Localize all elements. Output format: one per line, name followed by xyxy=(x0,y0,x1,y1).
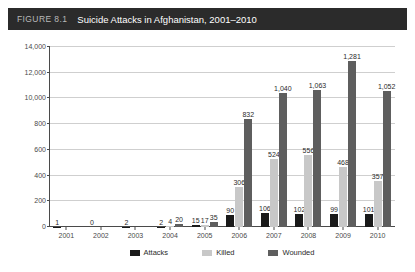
legend-label: Wounded xyxy=(282,248,314,257)
bar-group: 90306832 xyxy=(222,46,257,227)
y-tick-label: 800 xyxy=(34,120,46,127)
bar-slot: 4 xyxy=(166,46,174,227)
bar-slot xyxy=(131,46,139,227)
x-tick-mark xyxy=(100,227,101,230)
bar-wounded[interactable]: 1,052 xyxy=(383,91,391,227)
bar-wounded[interactable]: 1,063 xyxy=(313,90,321,227)
x-tick-mark xyxy=(273,227,274,230)
bar-wounded[interactable]: 1,040 xyxy=(279,93,287,227)
legend-label: Killed xyxy=(216,248,234,257)
bar-slot: 306 xyxy=(235,46,243,227)
bar-attacks[interactable]: 106 xyxy=(261,213,269,227)
x-tick-mark xyxy=(377,227,378,230)
bar-killed[interactable]: 468 xyxy=(339,167,347,228)
bar-slot xyxy=(71,46,79,227)
bar-attacks[interactable]: 101 xyxy=(365,214,373,227)
bar-slot: 357 xyxy=(374,46,382,227)
bar-wounded[interactable]: 1,281 xyxy=(348,61,356,227)
x-axis-label: 2003 xyxy=(118,232,153,239)
bar-value-label: 1,281 xyxy=(343,53,361,60)
bar-killed[interactable]: 524 xyxy=(270,159,278,227)
bar-group: 1025561,063 xyxy=(291,46,326,227)
bar-slot: 1,052 xyxy=(383,46,391,227)
bar-slot: 106 xyxy=(261,46,269,227)
bar-value-label: 90 xyxy=(226,207,234,214)
y-tick-label: 400 xyxy=(34,171,46,178)
bar-attacks[interactable]: 102 xyxy=(295,214,303,227)
figure-header-bar: FIGURE 8.1 Suicide Attacks in Afghanista… xyxy=(8,8,407,30)
bar-slot: 102 xyxy=(295,46,303,227)
bar-group: 1065241,040 xyxy=(257,46,292,227)
x-tick-mark xyxy=(343,227,344,230)
bar-attacks[interactable]: 90 xyxy=(226,215,234,227)
bar-group: 0 xyxy=(84,46,119,227)
bar-value-label: 35 xyxy=(210,214,218,221)
bar-slot: 17 xyxy=(201,46,209,227)
square-swatch-icon xyxy=(268,250,278,256)
bar-killed[interactable]: 306 xyxy=(235,187,243,227)
bar-slot: 0 xyxy=(88,46,96,227)
x-axis-label: 2002 xyxy=(84,232,119,239)
y-tick-label: 10,000 xyxy=(25,94,46,101)
x-axis-label: 2005 xyxy=(187,232,222,239)
bar-wounded[interactable]: 35 xyxy=(210,222,218,227)
x-axis-label: 2007 xyxy=(257,232,292,239)
bar-slot: 832 xyxy=(244,46,252,227)
chart-legend: AttacksKilledWounded xyxy=(49,248,395,257)
x-tick-mark xyxy=(170,227,171,230)
bar-value-label: 2 xyxy=(125,219,129,226)
bar-attacks[interactable]: 99 xyxy=(330,214,338,227)
legend-item-wounded[interactable]: Wounded xyxy=(268,248,314,257)
bar-groups: 1022420151735903068321065241,0401025561,… xyxy=(49,46,395,227)
legend-label: Attacks xyxy=(144,248,169,257)
bar-group: 1013571,052 xyxy=(360,46,395,227)
legend-item-attacks[interactable]: Attacks xyxy=(130,248,169,257)
y-tick-label: 600 xyxy=(34,145,46,152)
x-axis-label: 2008 xyxy=(291,232,326,239)
x-tick-mark xyxy=(239,227,240,230)
bar-value-label: 99 xyxy=(330,206,338,213)
bar-killed[interactable]: 357 xyxy=(374,181,382,227)
bar-value-label: 2 xyxy=(159,219,163,226)
bar-slot: 99 xyxy=(330,46,338,227)
bar-slot xyxy=(62,46,70,227)
bar-slot: 101 xyxy=(365,46,373,227)
figure-title: Suicide Attacks in Afghanistan, 2001–201… xyxy=(67,14,257,25)
x-tick-mark xyxy=(204,227,205,230)
bar-slot: 1,040 xyxy=(279,46,287,227)
bar-attacks[interactable]: 15 xyxy=(192,225,200,227)
bar-slot: 15 xyxy=(192,46,200,227)
x-axis-label: 2009 xyxy=(326,232,361,239)
bar-value-label: 17 xyxy=(201,217,209,224)
y-tick-label: 12,000 xyxy=(25,68,46,75)
bar-slot: 468 xyxy=(339,46,347,227)
y-tick-label: 0 xyxy=(42,223,46,230)
figure-number: FIGURE 8.1 xyxy=(8,14,67,24)
legend-item-killed[interactable]: Killed xyxy=(202,248,234,257)
bar-slot: 35 xyxy=(210,46,218,227)
bar-group: 994681,281 xyxy=(326,46,361,227)
bar-value-label: 1,052 xyxy=(378,83,396,90)
bar-slot xyxy=(140,46,148,227)
bar-slot: 2 xyxy=(157,46,165,227)
bar-value-label: 15 xyxy=(192,217,200,224)
bar-value-label: 20 xyxy=(175,216,183,223)
bar-slot: 90 xyxy=(226,46,234,227)
bar-killed[interactable]: 556 xyxy=(304,155,312,227)
x-axis-label: 2001 xyxy=(49,232,84,239)
x-axis-label: 2006 xyxy=(222,232,257,239)
bar-group: 151735 xyxy=(187,46,222,227)
bar-slot: 1,281 xyxy=(348,46,356,227)
bar-slot xyxy=(97,46,105,227)
bar-group: 2420 xyxy=(153,46,188,227)
x-tick-mark xyxy=(135,227,136,230)
bar-value-label: 0 xyxy=(90,219,94,226)
square-swatch-icon xyxy=(130,250,140,256)
bar-slot: 1 xyxy=(53,46,61,227)
bar-wounded[interactable]: 832 xyxy=(244,119,252,227)
bar-slot: 2 xyxy=(122,46,130,227)
figure-container: FIGURE 8.1 Suicide Attacks in Afghanista… xyxy=(0,0,415,272)
bar-value-label: 1,040 xyxy=(274,85,292,92)
bar-wounded[interactable]: 20 xyxy=(175,224,183,227)
x-axis-labels: 2001200220032004200520062007200820092010 xyxy=(49,232,395,239)
